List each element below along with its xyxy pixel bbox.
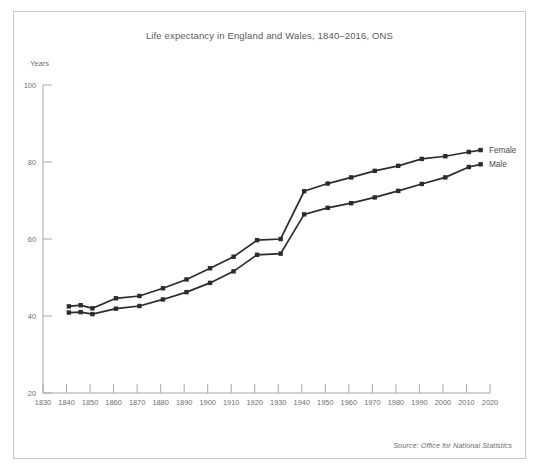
- chart-figure: Life expectancy in England and Wales, 18…: [0, 0, 539, 473]
- y-axis: 20406080100Years: [24, 59, 52, 398]
- data-point-male-1841: [67, 310, 71, 314]
- data-point-male-2001: [443, 175, 447, 179]
- data-point-female-1891: [184, 277, 188, 281]
- x-tick-label-1920: 1920: [247, 398, 263, 407]
- data-point-female-1871: [137, 294, 141, 298]
- source-attribution: Source: Office for National Statistics: [393, 441, 512, 450]
- data-point-female-1941: [302, 189, 306, 193]
- x-tick-label-2010: 2010: [458, 398, 474, 407]
- x-tick-label-1980: 1980: [388, 398, 404, 407]
- x-tick-label-1990: 1990: [411, 398, 427, 407]
- x-tick-label-1870: 1870: [129, 398, 145, 407]
- data-point-male-1891: [184, 290, 188, 294]
- x-tick-label-1930: 1930: [270, 398, 286, 407]
- y-tick-label-80: 80: [28, 158, 36, 167]
- data-point-male-1941: [302, 212, 306, 216]
- x-tick-label-1950: 1950: [317, 398, 333, 407]
- data-point-female-1861: [114, 296, 118, 300]
- x-tick-label-1840: 1840: [58, 398, 74, 407]
- data-point-male-1901: [208, 281, 212, 285]
- series-female: [67, 148, 483, 311]
- x-tick-label-2020: 2020: [482, 398, 498, 407]
- data-point-male-1861: [114, 306, 118, 310]
- data-point-male-1981: [396, 189, 400, 193]
- data-point-female-1991: [420, 157, 424, 161]
- data-point-female-1881: [161, 286, 165, 290]
- data-point-female-1971: [373, 169, 377, 173]
- x-tick-label-1970: 1970: [364, 398, 380, 407]
- x-tick-label-1960: 1960: [341, 398, 357, 407]
- data-point-female-1981: [396, 164, 400, 168]
- x-tick-label-1910: 1910: [223, 398, 239, 407]
- data-point-female-1846: [78, 303, 82, 307]
- legend-label-female: Female: [489, 146, 517, 155]
- x-tick-label-1860: 1860: [105, 398, 121, 407]
- data-point-male-1911: [231, 269, 235, 273]
- data-point-male-1951: [325, 206, 329, 210]
- data-point-female-1901: [208, 266, 212, 270]
- y-tick-label-60: 60: [28, 235, 36, 244]
- data-point-male-1971: [373, 195, 377, 199]
- data-point-male-1871: [137, 304, 141, 308]
- data-point-female-1851: [90, 306, 94, 310]
- y-tick-label-40: 40: [28, 312, 36, 321]
- x-tick-label-1900: 1900: [199, 398, 215, 407]
- x-axis: 1830184018501860187018801890190019101920…: [35, 384, 498, 407]
- chart-title: Life expectancy in England and Wales, 18…: [0, 30, 539, 41]
- data-point-male-2011: [467, 165, 471, 169]
- data-point-female-2011: [467, 150, 471, 154]
- data-point-male-1846: [78, 310, 82, 314]
- data-point-female-1841: [67, 304, 71, 308]
- data-point-male-1851: [90, 312, 94, 316]
- x-tick-label-2000: 2000: [435, 398, 451, 407]
- data-point-male-1991: [420, 182, 424, 186]
- series-line-female: [69, 150, 481, 308]
- data-point-female-1951: [325, 181, 329, 185]
- y-tick-label-100: 100: [24, 81, 36, 90]
- chart-plot-area: 20406080100Years183018401850186018701880…: [0, 0, 539, 473]
- data-point-female-2016: [478, 148, 482, 152]
- x-tick-label-1850: 1850: [82, 398, 98, 407]
- data-point-female-1961: [349, 175, 353, 179]
- data-point-male-1961: [349, 201, 353, 205]
- x-tick-label-1890: 1890: [176, 398, 192, 407]
- data-point-female-1931: [278, 237, 282, 241]
- x-tick-label-1880: 1880: [152, 398, 168, 407]
- data-point-male-1931: [278, 251, 282, 255]
- y-axis-title: Years: [30, 59, 49, 68]
- data-point-male-1881: [161, 297, 165, 301]
- y-tick-label-20: 20: [28, 389, 36, 398]
- x-tick-label-1830: 1830: [35, 398, 51, 407]
- data-point-female-2001: [443, 154, 447, 158]
- legend-label-male: Male: [489, 160, 507, 169]
- data-point-female-1911: [231, 255, 235, 259]
- legend: FemaleMale: [489, 146, 517, 169]
- data-point-female-1921: [255, 238, 259, 242]
- x-tick-label-1940: 1940: [294, 398, 310, 407]
- data-point-male-2016: [478, 162, 482, 166]
- data-point-male-1921: [255, 253, 259, 257]
